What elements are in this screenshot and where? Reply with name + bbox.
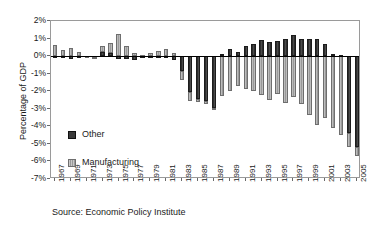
y-axis-title: Percentage of GDP bbox=[18, 26, 28, 176]
bar-segment-manufacturing bbox=[196, 99, 200, 102]
bar-group bbox=[244, 21, 248, 177]
bar-segment-manufacturing bbox=[259, 56, 263, 95]
bar-segment-manufacturing bbox=[315, 56, 319, 124]
y-tick-label: -3% bbox=[6, 104, 46, 113]
legend-swatch-manufacturing-icon bbox=[68, 159, 76, 167]
bar-segment-manufacturing bbox=[188, 92, 192, 101]
bar-segment-manufacturing bbox=[108, 43, 112, 53]
bar-group bbox=[220, 21, 224, 177]
bar-segment-other bbox=[244, 46, 248, 56]
bar-segment-manufacturing bbox=[244, 56, 248, 88]
bar-group bbox=[355, 21, 359, 177]
bar-group bbox=[323, 21, 327, 177]
bar-group bbox=[61, 21, 65, 177]
legend-item-manufacturing: Manufacturing bbox=[68, 158, 139, 167]
bar-segment-other bbox=[275, 41, 279, 56]
x-tick-label: 2003 bbox=[344, 164, 352, 182]
x-tick-mark bbox=[292, 178, 293, 181]
x-tick-mark bbox=[308, 178, 309, 181]
bar-group bbox=[267, 21, 271, 177]
bar-segment-manufacturing bbox=[347, 133, 351, 147]
x-tick-label: 1995 bbox=[281, 164, 289, 182]
chart-figure: Percentage of GDP 2%1%0%-1%-2%-3%-4%-5%-… bbox=[0, 0, 375, 231]
bar-group bbox=[85, 21, 89, 177]
y-tick-mark bbox=[47, 20, 50, 21]
x-tick-mark bbox=[324, 178, 325, 181]
bar-segment-manufacturing bbox=[220, 56, 224, 96]
x-tick-mark bbox=[340, 178, 341, 181]
bar-segment-other bbox=[259, 40, 263, 56]
bar-group bbox=[53, 21, 57, 177]
bar-group bbox=[172, 21, 176, 177]
bar-group bbox=[164, 21, 168, 177]
bar-group bbox=[212, 21, 216, 177]
x-tick-mark bbox=[229, 178, 230, 181]
bar-segment-manufacturing bbox=[204, 101, 208, 105]
bar-group bbox=[236, 21, 240, 177]
x-tick-label: 1991 bbox=[249, 164, 257, 182]
x-tick-mark bbox=[181, 178, 182, 181]
bar-segment-other bbox=[180, 56, 184, 71]
bar-segment-manufacturing bbox=[299, 56, 303, 104]
x-tick-mark bbox=[70, 178, 71, 181]
bar-group bbox=[347, 21, 351, 177]
y-tick-label: -4% bbox=[6, 121, 46, 130]
bar-group bbox=[339, 21, 343, 177]
bar-group bbox=[132, 21, 136, 177]
x-tick-mark bbox=[213, 178, 214, 181]
legend-item-other: Other bbox=[68, 130, 105, 139]
bar-segment-manufacturing bbox=[69, 48, 73, 56]
x-tick-mark bbox=[133, 178, 134, 181]
x-tick-mark bbox=[149, 178, 150, 181]
legend-label-manufacturing: Manufacturing bbox=[82, 158, 139, 167]
bar-segment-other bbox=[355, 56, 359, 146]
bar-group bbox=[283, 21, 287, 177]
bar-group bbox=[188, 21, 192, 177]
bar-segment-other bbox=[323, 44, 327, 56]
bar-segment-manufacturing bbox=[307, 56, 311, 115]
y-tick-mark bbox=[47, 178, 50, 179]
x-tick-mark bbox=[245, 178, 246, 181]
bar-segment-other bbox=[291, 35, 295, 56]
x-tick-label: 1983 bbox=[185, 164, 193, 182]
bar-segment-other bbox=[204, 56, 208, 101]
bar-group bbox=[204, 21, 208, 177]
bar-group bbox=[116, 21, 120, 177]
y-tick-label: -6% bbox=[6, 156, 46, 165]
x-tick-label: 1985 bbox=[201, 164, 209, 182]
bar-group bbox=[92, 21, 96, 177]
x-tick-mark bbox=[118, 178, 119, 181]
y-tick-label: 2% bbox=[6, 16, 46, 25]
y-tick-mark bbox=[47, 73, 50, 74]
bar-segment-manufacturing bbox=[100, 46, 104, 52]
bar-group bbox=[228, 21, 232, 177]
bar-segment-manufacturing bbox=[116, 34, 120, 56]
x-tick-mark bbox=[54, 178, 55, 181]
bar-segment-manufacturing bbox=[339, 56, 343, 135]
x-tick-label: 1999 bbox=[312, 164, 320, 182]
bar-segment-other bbox=[299, 39, 303, 57]
y-tick-label: -5% bbox=[6, 139, 46, 148]
y-tick-mark bbox=[47, 90, 50, 91]
bar-segment-other bbox=[188, 56, 192, 92]
y-tick-mark bbox=[47, 143, 50, 144]
y-tick-mark bbox=[47, 38, 50, 39]
y-tick-label: -2% bbox=[6, 86, 46, 95]
bar-segment-manufacturing bbox=[53, 45, 57, 56]
source-note: Source: Economic Policy Institute bbox=[52, 208, 186, 217]
x-tick-label: 1993 bbox=[265, 164, 273, 182]
x-tick-label: 1987 bbox=[217, 164, 225, 182]
y-tick-mark bbox=[47, 125, 50, 126]
bar-group bbox=[148, 21, 152, 177]
bar-segment-manufacturing bbox=[228, 56, 232, 91]
bar-segment-manufacturing bbox=[212, 108, 216, 110]
bar-segment-manufacturing bbox=[355, 147, 359, 157]
bar-segment-other bbox=[283, 39, 287, 56]
bar-segment-manufacturing bbox=[164, 49, 168, 56]
bar-group bbox=[77, 21, 81, 177]
x-tick-mark bbox=[86, 178, 87, 181]
bar-group bbox=[307, 21, 311, 177]
zero-baseline bbox=[51, 56, 359, 57]
bar-segment-manufacturing bbox=[331, 56, 335, 128]
bar-segment-other bbox=[251, 44, 255, 56]
